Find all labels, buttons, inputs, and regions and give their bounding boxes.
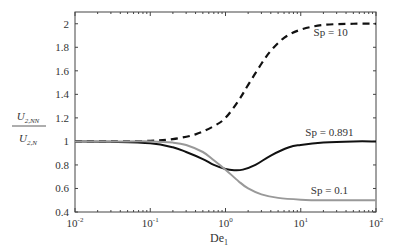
- plot-axes: 0.40.60.811.21.41.61.8210-210-1100101102: [55, 12, 384, 229]
- series-label-1: Sp = 0.891: [305, 126, 353, 138]
- x-tick-label: 100: [218, 216, 233, 229]
- series-line-0: [75, 24, 376, 142]
- svg-text:U2,N: U2,N: [19, 132, 37, 147]
- chart: 0.40.60.811.21.41.61.8210-210-1100101102…: [0, 0, 393, 249]
- axis-titles: De1 U2,NN U2,N: [12, 110, 228, 247]
- plot-frame: [75, 12, 376, 212]
- series-labels: Sp = 10Sp = 0.891Sp = 0.1: [305, 26, 353, 196]
- x-tick-label: 10-1: [142, 216, 159, 229]
- y-tick-label: 1: [64, 135, 70, 147]
- y-tick-label: 0.8: [55, 159, 69, 171]
- y-tick-label: 1.6: [55, 65, 69, 77]
- svg-text:U2,NN: U2,NN: [17, 110, 40, 125]
- x-tick-label: 101: [294, 216, 309, 229]
- series-label-0: Sp = 10: [314, 26, 349, 38]
- y-tick-label: 1.8: [55, 41, 69, 53]
- x-axis-label: De1: [210, 231, 228, 247]
- y-tick-label: 0.6: [55, 182, 69, 194]
- chart-canvas: 0.40.60.811.21.41.61.8210-210-1100101102…: [0, 0, 393, 249]
- y-tick-label: 1.2: [55, 112, 69, 124]
- series-layer: [75, 24, 376, 201]
- y-tick-label: 1.4: [55, 88, 69, 100]
- y-axis-label: U2,NN U2,N: [12, 110, 46, 147]
- x-tick-label: 102: [369, 216, 384, 229]
- series-line-1: [75, 141, 376, 170]
- series-label-2: Sp = 0.1: [311, 184, 348, 196]
- x-tick-label: 10-2: [67, 216, 84, 229]
- y-tick-label: 2: [64, 18, 70, 30]
